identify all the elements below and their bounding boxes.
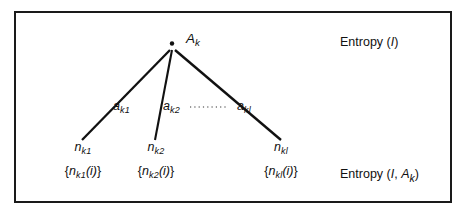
entropy-bottom-label: Entropy (I, Ak) (340, 168, 419, 184)
leaf-set-1-subscript: k1 (76, 170, 86, 180)
leaf-node-label-2-base: n (148, 140, 155, 154)
leaf-node-label-3-base: n (274, 140, 281, 154)
leaf-set-1-argument: (i) (86, 164, 97, 178)
entropy-bottom-arg-a: A (401, 167, 409, 181)
entropy-top-word: Entropy (340, 35, 383, 49)
edge-label-1-base: a (113, 99, 120, 113)
edge-label-2: ak2 (163, 100, 180, 113)
leaf-set-2-close-brace: } (170, 164, 174, 178)
leaf-set-3-subscript: kl (275, 170, 282, 180)
entropy-tree-figure: Ak ak1 ak2 akl nk1 {nk1(i)} nk2 {nk2(i)}… (0, 0, 467, 216)
edge-label-3-base: a (237, 99, 244, 113)
leaf-set-3-close-brace: } (293, 164, 297, 178)
leaf-set-label-3: {nkl(i)} (264, 165, 297, 178)
leaf-set-label-1: {nk1(i)} (65, 165, 101, 178)
entropy-top-close-paren: ) (394, 35, 398, 49)
leaf-node-label-1-base: n (75, 140, 82, 154)
root-node-label: Ak (186, 32, 200, 46)
edge-label-2-base: a (163, 99, 170, 113)
entropy-bottom-word: Entropy (340, 167, 383, 181)
leaf-node-label-2: nk2 (148, 141, 165, 154)
leaf-set-3-argument: (i) (282, 164, 293, 178)
leaf-node-label-2-subscript: k2 (155, 146, 165, 156)
leaf-node-label-1-subscript: k1 (82, 146, 92, 156)
edge-label-3: akl (237, 100, 251, 113)
leaf-set-2-subscript: k2 (149, 170, 159, 180)
leaf-node-label-3: nkl (274, 141, 288, 154)
entropy-top-label: Entropy (I) (340, 36, 398, 49)
edge-label-2-subscript: k2 (170, 105, 180, 115)
leaf-node-label-3-subscript: kl (281, 146, 288, 156)
root-label-subscript: k (195, 37, 200, 48)
edge-label-1: ak1 (113, 100, 130, 113)
leaf-set-label-2: {nk2(i)} (138, 165, 174, 178)
edge-label-1-subscript: k1 (120, 105, 130, 115)
leaf-set-1-close-brace: } (97, 164, 101, 178)
leaf-node-label-1: nk1 (75, 141, 92, 154)
entropy-bottom-close-paren: ) (415, 167, 419, 181)
root-label-base: A (186, 31, 195, 46)
edge-label-3-subscript: kl (244, 105, 251, 115)
leaf-set-2-argument: (i) (159, 164, 170, 178)
